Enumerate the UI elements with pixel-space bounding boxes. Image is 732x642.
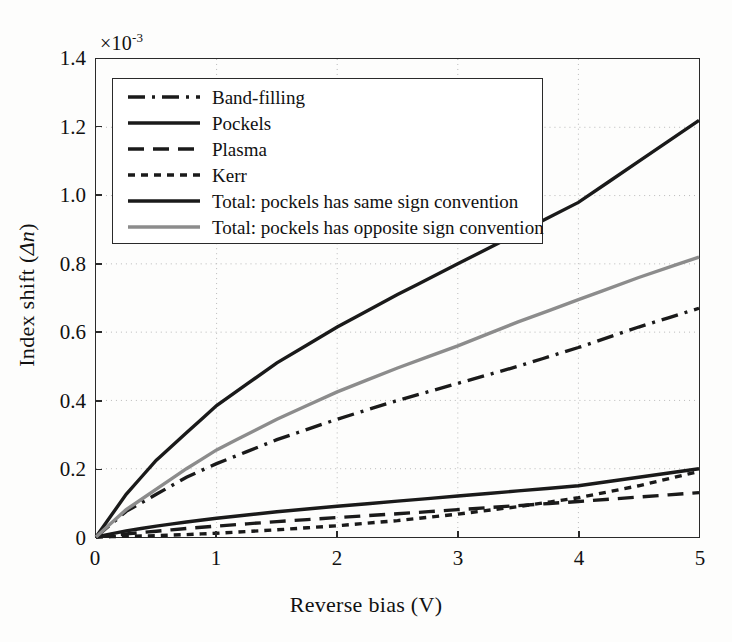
y-axis-tick-mark	[95, 400, 102, 402]
y-axis-title-prefix: Index shift (	[14, 255, 39, 366]
series-line	[96, 493, 699, 537]
x-axis-tick-label: 5	[695, 548, 706, 569]
y-axis-tick-group: 00.20.40.60.81.01.21.4	[0, 0, 86, 642]
y-axis-exponent-base: ×10	[100, 32, 132, 54]
x-axis-tick-label: 1	[211, 548, 222, 569]
x-axis-tick-label: 3	[453, 548, 464, 569]
y-axis-tick-mark	[95, 469, 102, 471]
legend-line-swatch-icon	[127, 90, 201, 104]
legend-line-swatch-icon	[127, 220, 201, 234]
legend-item[interactable]: Total: pockels has opposite sign convent…	[113, 214, 542, 240]
series-line	[96, 257, 699, 537]
legend-item[interactable]: Plasma	[113, 136, 542, 162]
x-axis-tick-mark	[215, 531, 217, 538]
x-axis-title: Reverse bias (V)	[0, 592, 732, 618]
legend-item-label: Total: pockels has same sign convention	[212, 192, 518, 211]
y-axis-title-symbol: Δn	[14, 231, 39, 256]
legend-line-swatch-icon	[127, 168, 201, 182]
x-axis-tick-mark	[336, 531, 338, 538]
legend-item-label: Plasma	[212, 140, 267, 159]
y-axis-title-suffix: )	[14, 223, 39, 231]
y-axis-tick-mark	[95, 331, 102, 333]
legend-line-swatch-icon	[127, 194, 201, 208]
legend-item-label: Kerr	[212, 166, 247, 185]
x-axis-tick-mark	[457, 531, 459, 538]
y-axis-title: Index shift (Δn)	[14, 85, 40, 505]
y-axis-exponent-power: -3	[132, 30, 143, 45]
legend-item-label: Total: pockels has opposite sign convent…	[212, 218, 544, 237]
x-axis-tick-label: 4	[574, 548, 585, 569]
y-axis-tick-label: 1.4	[8, 48, 86, 69]
legend-item[interactable]: Band-filling	[113, 84, 542, 110]
legend-item[interactable]: Pockels	[113, 110, 542, 136]
chart-legend: Band-fillingPockelsPlasmaKerrTotal: pock…	[112, 78, 543, 244]
legend-item[interactable]: Kerr	[113, 162, 542, 188]
x-axis-tick-label: 2	[332, 548, 343, 569]
y-axis-tick-mark	[95, 194, 102, 196]
y-axis-tick-mark	[95, 263, 102, 265]
chart-figure: ×10-3 00.20.40.60.81.01.21.4 012345 Band…	[0, 0, 732, 642]
x-axis-tick-label: 0	[90, 548, 101, 569]
x-axis-tick-mark	[578, 531, 580, 538]
legend-line-swatch-icon	[127, 116, 201, 130]
legend-item-label: Band-filling	[212, 88, 305, 107]
y-axis-tick-mark	[95, 126, 102, 128]
legend-line-swatch-icon	[127, 142, 201, 156]
legend-item-label: Pockels	[212, 114, 271, 133]
y-axis-exponent: ×10-3	[100, 30, 143, 55]
legend-item[interactable]: Total: pockels has same sign convention	[113, 188, 542, 214]
y-axis-tick-label: 0	[8, 528, 86, 549]
